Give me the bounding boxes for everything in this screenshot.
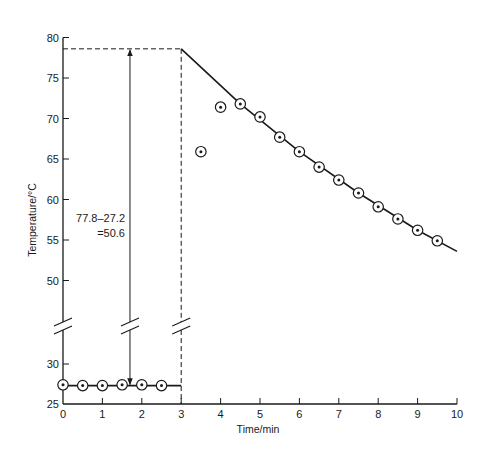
tick-labels: 253050556065707580012345678910 bbox=[47, 32, 463, 421]
data-point-dot bbox=[219, 106, 222, 109]
x-tick-label: 6 bbox=[296, 408, 302, 420]
data-point bbox=[353, 188, 363, 198]
y-tick-label: 70 bbox=[47, 113, 59, 125]
data-point-dot bbox=[101, 384, 104, 387]
x-tick-label: 10 bbox=[451, 408, 463, 420]
y-tick-label: 75 bbox=[47, 72, 59, 84]
data-point bbox=[294, 147, 304, 157]
y-tick-label: 30 bbox=[47, 358, 59, 370]
data-point bbox=[156, 380, 166, 390]
data-point bbox=[58, 380, 68, 390]
data-point bbox=[97, 380, 107, 390]
data-point-dot bbox=[318, 166, 321, 169]
data-point-dot bbox=[436, 239, 439, 242]
data-point bbox=[334, 175, 344, 185]
x-tick-label: 1 bbox=[99, 408, 105, 420]
data-point-dot bbox=[239, 102, 242, 105]
data-point-dot bbox=[160, 384, 163, 387]
data-point-dot bbox=[416, 229, 419, 232]
data-point-dot bbox=[298, 150, 301, 153]
data-point bbox=[275, 132, 285, 142]
data-point-dot bbox=[62, 383, 65, 386]
y-tick-label: 80 bbox=[47, 32, 59, 44]
data-points bbox=[58, 99, 443, 391]
data-point bbox=[432, 236, 442, 246]
annotation-line2: =50.6 bbox=[97, 227, 125, 239]
x-tick-label: 3 bbox=[178, 408, 184, 420]
data-point-dot bbox=[377, 205, 380, 208]
x-tick-label: 7 bbox=[336, 408, 342, 420]
y-axis-title: Temperature/°C bbox=[26, 183, 38, 257]
x-tick-label: 4 bbox=[218, 408, 224, 420]
data-point-dot bbox=[337, 179, 340, 182]
annotation-line1: 77.8–27.2 bbox=[76, 212, 125, 224]
data-point-dot bbox=[121, 383, 124, 386]
y-tick-label: 65 bbox=[47, 153, 59, 165]
x-tick-label: 0 bbox=[60, 408, 66, 420]
data-point-dot bbox=[140, 383, 143, 386]
data-point bbox=[393, 214, 403, 224]
data-point bbox=[235, 99, 245, 109]
x-tick-label: 2 bbox=[139, 408, 145, 420]
data-point bbox=[78, 380, 88, 390]
data-point-dot bbox=[396, 217, 399, 220]
data-point bbox=[373, 202, 383, 212]
data-point bbox=[137, 380, 147, 390]
data-point-dot bbox=[278, 136, 281, 139]
data-point bbox=[412, 225, 422, 235]
cooling-curve-line bbox=[181, 49, 457, 252]
data-point bbox=[117, 380, 127, 390]
x-tick-label: 9 bbox=[415, 408, 421, 420]
data-point bbox=[196, 147, 206, 157]
y-tick-label: 60 bbox=[47, 194, 59, 206]
x-tick-label: 8 bbox=[375, 408, 381, 420]
data-point bbox=[255, 112, 265, 122]
x-tick-label: 5 bbox=[257, 408, 263, 420]
y-tick-label: 25 bbox=[47, 398, 59, 410]
temperature-time-chart: 253050556065707580012345678910 Time/min … bbox=[0, 0, 493, 457]
data-point-dot bbox=[199, 150, 202, 153]
y-tick-label: 50 bbox=[47, 275, 59, 287]
data-point-dot bbox=[357, 192, 360, 195]
y-tick-label: 55 bbox=[47, 234, 59, 246]
data-point-dot bbox=[259, 115, 262, 118]
data-point bbox=[314, 162, 324, 172]
data-point bbox=[215, 102, 225, 112]
x-axis-title: Time/min bbox=[237, 423, 280, 435]
data-point-dot bbox=[81, 384, 84, 387]
